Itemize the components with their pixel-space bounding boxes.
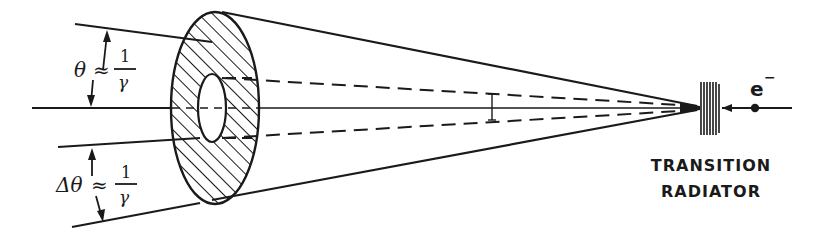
theta-denominator: γ [118,72,129,92]
transition-radiator-diagram: e − θ ≈ 1 γ Δθ ≈ 1 γ TRANSITION RADIATOR [0,0,824,240]
arrow-down-icon [87,95,95,107]
radiation-cone-outer [212,12,697,200]
theta-approx: ≈ [93,58,110,82]
electron-charge: − [764,69,777,85]
radiator-caption: TRANSITION RADIATOR [651,156,771,201]
electron: e − [722,69,777,112]
radiator-caption-line2: RADIATOR [661,182,761,201]
delta-theta-symbol: Δθ [55,173,82,197]
electron-label: e [750,77,765,101]
theta-annotation: θ ≈ 1 γ [74,30,136,107]
arrow-up-icon [103,30,111,42]
radiator-foil-stack [701,82,719,135]
theta-symbol: θ [74,58,86,82]
delta-theta-approx: ≈ [91,173,108,197]
radiator-caption-line1: TRANSITION [651,156,771,175]
cone-width-marker [488,94,496,120]
radiation-ring [171,12,259,204]
electron-dot [751,104,759,112]
theta-numerator: 1 [120,47,130,66]
delta-theta-annotation: Δθ ≈ 1 γ [55,148,137,222]
electron-direction-arrow-icon [722,104,732,112]
cone-apex [680,103,700,113]
delta-theta-denominator: γ [119,187,130,207]
delta-theta-numerator: 1 [121,163,131,182]
arrow-up-icon [88,148,96,160]
